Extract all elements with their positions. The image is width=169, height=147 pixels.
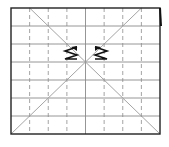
top-right-edge-mark <box>160 8 161 26</box>
grid-diagram <box>0 0 169 147</box>
diagonal-line-descending <box>30 8 160 134</box>
diagonal-line-ascending <box>11 8 141 134</box>
grid-lines <box>11 8 160 134</box>
